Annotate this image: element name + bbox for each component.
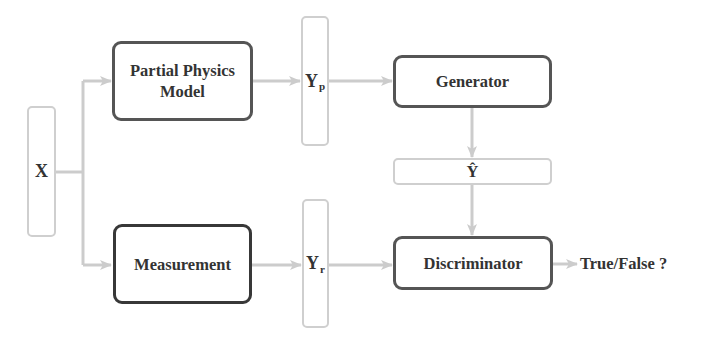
output-label: True/False ? (580, 254, 667, 274)
generator-block: Generator (393, 55, 552, 108)
yr-subscript: r (320, 263, 325, 275)
partial-physics-model-block: Partial Physics Model (112, 41, 253, 121)
yp-label: Y (305, 71, 318, 92)
yr-vector: Yr (302, 199, 329, 328)
yp-subscript: p (319, 80, 325, 92)
generator-label: Generator (436, 71, 509, 92)
x-input-vector: X (27, 106, 56, 237)
measurement-label: Measurement (134, 254, 231, 275)
yhat-vector: Ŷ (393, 158, 552, 185)
partial-physics-label-line1: Partial Physics (130, 60, 235, 81)
discriminator-label: Discriminator (424, 253, 523, 274)
yhat-label: Ŷ (467, 161, 479, 182)
partial-physics-label-line2: Model (160, 81, 205, 102)
x-label: X (35, 161, 48, 182)
discriminator-block: Discriminator (393, 236, 553, 290)
measurement-block: Measurement (113, 224, 252, 304)
yr-label: Y (306, 253, 319, 274)
connector-layer (0, 0, 705, 344)
yp-vector: Yp (301, 16, 329, 146)
